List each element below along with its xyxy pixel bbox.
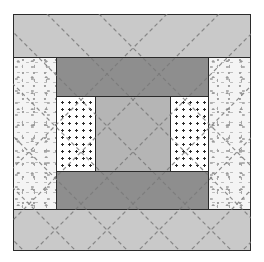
left-floral-side xyxy=(13,57,57,210)
inner-bottom-band xyxy=(56,171,209,210)
top-band xyxy=(13,14,251,58)
quilt-block xyxy=(13,14,251,251)
bottom-band xyxy=(13,209,251,251)
center-square xyxy=(95,96,171,172)
inner-right-dotted xyxy=(170,96,209,172)
right-floral-side xyxy=(208,57,251,210)
inner-top-band xyxy=(56,57,209,97)
inner-left-dotted xyxy=(56,96,96,172)
